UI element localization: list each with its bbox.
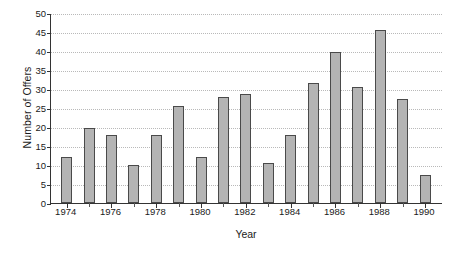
x-tick-label: 1976 <box>90 206 130 218</box>
x-tick-label: 1988 <box>359 206 399 218</box>
x-tick-label: 1990 <box>404 206 444 218</box>
y-tick-label: 30 <box>26 85 46 95</box>
bar <box>352 87 363 203</box>
y-tick-label: 5 <box>26 180 46 190</box>
y-axis-tick-labels: 05101520253035404550 <box>26 14 46 204</box>
bar <box>240 94 251 203</box>
bar <box>106 135 117 203</box>
y-tick-label: 35 <box>26 66 46 76</box>
bar-series <box>51 14 442 203</box>
y-tick-label: 50 <box>26 9 46 19</box>
y-tick-label: 40 <box>26 47 46 57</box>
y-tick-label: 0 <box>26 199 46 209</box>
bar <box>84 128 95 203</box>
bar <box>263 163 274 203</box>
bar <box>151 135 162 203</box>
x-tick-label: 1974 <box>46 206 86 218</box>
x-tick-label: 1980 <box>180 206 220 218</box>
y-tick-mark <box>47 204 51 205</box>
x-axis-tick-labels: 197419761978198019821984198619881990 <box>50 206 442 220</box>
bar <box>285 135 296 203</box>
y-tick-label: 25 <box>26 104 46 114</box>
y-tick-label: 10 <box>26 161 46 171</box>
y-tick-label: 20 <box>26 123 46 133</box>
x-tick-label: 1978 <box>135 206 175 218</box>
bar <box>173 106 184 203</box>
bar <box>375 30 386 203</box>
plot-area <box>50 14 442 204</box>
bar <box>218 97 229 203</box>
y-tick-label: 15 <box>26 142 46 152</box>
bar <box>420 175 431 204</box>
bar-chart-figure: Number of Offers 05101520253035404550 19… <box>0 0 453 256</box>
x-tick-label: 1982 <box>225 206 265 218</box>
bar <box>128 165 139 203</box>
bar <box>330 52 341 203</box>
bar <box>196 157 207 203</box>
bar <box>308 83 319 203</box>
y-tick-label: 45 <box>26 28 46 38</box>
x-axis-title: Year <box>50 228 442 241</box>
x-tick-label: 1986 <box>314 206 354 218</box>
bar <box>61 157 72 203</box>
bar <box>397 99 408 204</box>
x-tick-label: 1984 <box>270 206 310 218</box>
